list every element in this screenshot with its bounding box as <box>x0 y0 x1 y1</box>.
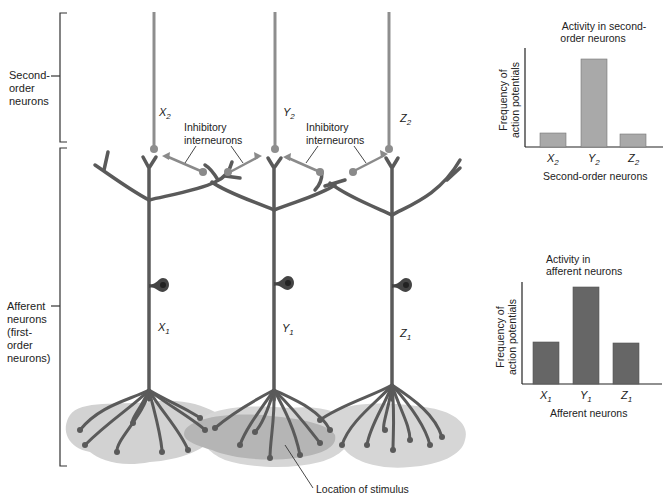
neuron-label-x1: X1 <box>158 321 170 338</box>
cell-bodies <box>149 276 412 292</box>
chart1-title: Activity in second- order neurons <box>554 20 654 44</box>
neuron-label-y1: Y1 <box>282 322 294 339</box>
label-line: neurons <box>7 313 50 326</box>
neuron-label-y2: Y2 <box>283 106 295 123</box>
inhibitory-label-1: Inhibitory interneurons <box>184 121 242 147</box>
chart2-ylabel: Frequency of action potentials <box>494 299 518 375</box>
afferent-neurons <box>95 152 460 400</box>
second-order-label: Second- order neurons <box>9 69 50 108</box>
label-line: interneurons <box>306 134 364 147</box>
ylabel-line: action potentials <box>509 62 521 138</box>
inhibitory-label-2: Inhibitory interneurons <box>306 121 364 147</box>
label-line: Second- <box>9 69 50 82</box>
ylabel-line: Frequency of <box>497 62 509 138</box>
stimulus-label: Location of stimulus <box>316 483 409 496</box>
label-line: Inhibitory <box>306 121 364 134</box>
brackets <box>51 13 67 466</box>
label-line: Afferent <box>7 300 50 313</box>
chart2-tick-z1: Z1 <box>621 389 632 404</box>
chart-second-order <box>525 48 663 147</box>
title-line: afferent neurons <box>546 265 622 277</box>
chart-afferent <box>522 282 662 384</box>
title-line: Activity in <box>546 253 622 265</box>
chart2-tick-y1: Y1 <box>580 389 592 404</box>
chart2-xlabel: Afferent neurons <box>550 407 627 419</box>
neuron-label-x2: X2 <box>159 106 171 123</box>
afferent-label: Afferent neurons (first- order neurons) <box>7 300 50 365</box>
chart2-title: Activity in afferent neurons <box>546 253 622 277</box>
label-line: (first- <box>7 326 50 339</box>
ylabel-line: Frequency of <box>494 299 506 375</box>
title-line: order neurons <box>532 32 654 44</box>
neuron-label-z2: Z2 <box>400 112 411 129</box>
label-line: neurons) <box>7 352 50 365</box>
ylabel-line: action potentials <box>506 299 518 375</box>
chart1-xlabel: Second-order neurons <box>543 170 647 182</box>
chart1-ylabel: Frequency of action potentials <box>497 62 521 138</box>
label-line: neurons <box>9 95 50 108</box>
chart1-tick-z2: Z2 <box>628 152 639 167</box>
chart1-tick-x2: X2 <box>547 152 559 167</box>
label-line: order <box>9 82 50 95</box>
neuron-label-z1: Z1 <box>400 327 411 344</box>
chart1-tick-y2: Y2 <box>588 152 600 167</box>
chart2-tick-x1: X1 <box>540 389 552 404</box>
label-line: Inhibitory <box>184 121 242 134</box>
label-line: order <box>7 339 50 352</box>
neuron-diagram <box>0 0 672 504</box>
label-line: interneurons <box>184 134 242 147</box>
title-line: Activity in second- <box>554 20 654 32</box>
